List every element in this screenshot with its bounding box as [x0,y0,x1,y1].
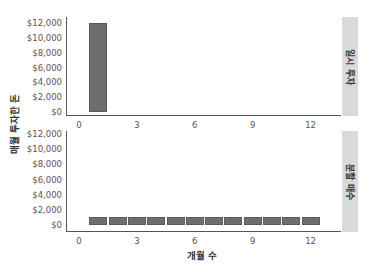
y-tick-label: $8,000 [32,159,62,169]
y-tick-label: $6,000 [32,175,62,185]
bar [128,217,146,225]
y-tick-label: $0 [51,220,62,230]
x-axis-line [66,231,341,232]
y-tick-label: $0 [51,107,62,117]
bar [282,217,300,225]
y-tick-label: $2,000 [32,205,62,215]
bar [205,217,223,225]
x-tick-label: 0 [76,120,81,130]
y-tick-label: $10,000 [27,144,62,154]
x-axis-title: 개월 수 [187,248,217,262]
bar [167,217,185,225]
x-tick-label: 9 [250,236,255,246]
bar [89,217,107,225]
bar [109,217,127,225]
y-tick-label: $10,000 [27,33,62,43]
facet-strip-label: 분할 매수 [344,164,357,199]
bar [244,217,262,225]
facet-strip-label: 일시 투자 [344,49,357,84]
x-tick-label: 12 [305,236,316,246]
y-tick-label: $8,000 [32,48,62,58]
facet-panel-2: $0$2,000$4,000$6,000$8,000$10,000$12,000… [66,131,341,232]
bar [263,217,281,225]
bar [302,217,320,225]
y-tick-label: $12,000 [27,129,62,139]
y-tick-label: $4,000 [32,190,62,200]
x-tick-label: 6 [192,236,197,246]
x-tick-label: 12 [305,120,316,130]
x-tick-label: 0 [76,236,81,246]
x-tick-label: 3 [134,236,139,246]
y-tick-label: $4,000 [32,77,62,87]
x-axis-line [66,115,341,116]
facet-strip-1: 일시 투자 [342,17,358,116]
facet-strip-2: 분할 매수 [342,131,358,232]
x-tick-label: 6 [192,120,197,130]
y-axis-line [66,17,67,116]
x-tick-label: 3 [134,120,139,130]
bar [224,217,242,225]
y-tick-label: $6,000 [32,63,62,73]
y-axis-line [66,131,67,232]
facet-panel-1: $0$2,000$4,000$6,000$8,000$10,000$12,000… [66,17,341,116]
y-axis-title: 매월 투자한 돈 [7,94,21,155]
bar [89,23,107,112]
x-tick-label: 9 [250,120,255,130]
y-tick-label: $2,000 [32,92,62,102]
bar [147,217,165,225]
bar [186,217,204,225]
y-tick-label: $12,000 [27,18,62,28]
